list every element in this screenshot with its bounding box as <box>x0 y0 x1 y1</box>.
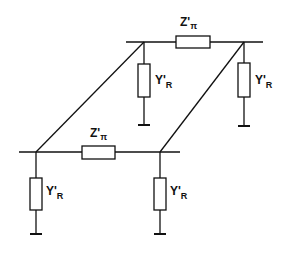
right-diagonal-connection <box>160 42 244 152</box>
top-series-impedance <box>176 36 210 48</box>
top-right-shunt-label: Y'R <box>255 73 273 90</box>
top-left-shunt-label: Y'R <box>155 73 173 90</box>
top-pi-section: Z'π Y'R Y'R <box>126 15 273 126</box>
bottom-left-shunt-admittance <box>30 178 42 210</box>
bottom-left-shunt-label: Y'R <box>46 184 64 201</box>
bottom-right-shunt-label: Y'R <box>170 184 188 201</box>
bottom-right-shunt-admittance <box>154 178 166 210</box>
top-right-shunt-admittance <box>238 63 250 97</box>
bottom-series-impedance <box>82 146 115 159</box>
top-left-shunt-admittance <box>138 64 150 97</box>
top-series-label: Z'π <box>180 15 197 31</box>
bottom-series-label: Z'π <box>90 126 107 142</box>
pi-circuit-diagram: Z'π Y'R Y'R Z'π Y'R <box>0 0 283 254</box>
bottom-pi-section: Z'π Y'R Y'R <box>19 126 188 234</box>
